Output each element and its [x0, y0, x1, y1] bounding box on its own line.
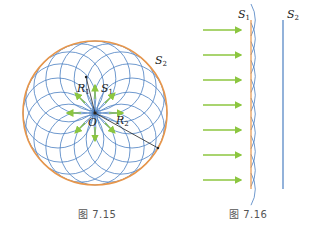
- caption-figure-7-15: 图 7.15: [78, 206, 116, 221]
- label-S2-right: S2: [287, 8, 299, 22]
- figure-7-15: O R1 S1 R2 S2: [23, 41, 167, 185]
- radius-R2: [95, 113, 158, 148]
- center-point-O: [93, 111, 97, 115]
- figure-7-16: S1 S2: [203, 4, 299, 207]
- caption-figure-7-16: 图 7.16: [229, 206, 267, 221]
- diagram-canvas: O R1 S1 R2 S2 S1 S2: [0, 0, 317, 239]
- label-S1: S1: [101, 82, 113, 96]
- incident-arrows: [203, 30, 241, 180]
- label-R2: R2: [115, 114, 129, 128]
- label-S1-right: S1: [238, 8, 250, 22]
- plane-wavelets: [251, 4, 283, 207]
- label-O: O: [88, 116, 97, 129]
- label-S2: S2: [155, 54, 167, 68]
